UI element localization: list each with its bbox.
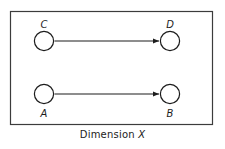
node-label-a: A <box>40 108 48 119</box>
node-label-b: B <box>167 108 174 119</box>
node-label-d: D <box>166 19 174 30</box>
node-label-c: C <box>41 19 48 30</box>
figure-caption: Dimension X <box>0 128 225 141</box>
node-circle-a <box>34 84 53 103</box>
diagram-canvas: C D A B <box>0 0 225 149</box>
node-circle-d <box>160 31 179 50</box>
node-circle-c <box>34 31 53 50</box>
caption-variable: X <box>138 129 145 140</box>
dimension-x-figure: C D A B Dimension X <box>0 0 225 149</box>
caption-prefix: Dimension <box>80 129 138 140</box>
node-circle-b <box>160 84 179 103</box>
